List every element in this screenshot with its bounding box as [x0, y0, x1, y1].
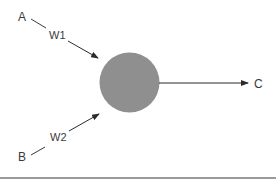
weight-w1-label: W1: [49, 29, 66, 41]
edge-a-to-w1: [31, 19, 46, 28]
edge-b-to-w2: [31, 147, 45, 155]
diagram-svg: A W1 B W2 C: [0, 0, 276, 179]
bottom-divider: [0, 177, 276, 179]
input-a-label: A: [18, 10, 26, 24]
diagram-canvas: A W1 B W2 C: [0, 0, 276, 179]
neuron-node: [100, 53, 160, 113]
output-c-label: C: [254, 77, 263, 91]
weight-w2-label: W2: [50, 131, 67, 143]
arrow-w1-to-node: [68, 41, 98, 58]
input-b-label: B: [18, 150, 26, 164]
arrow-w2-to-node: [69, 114, 99, 131]
